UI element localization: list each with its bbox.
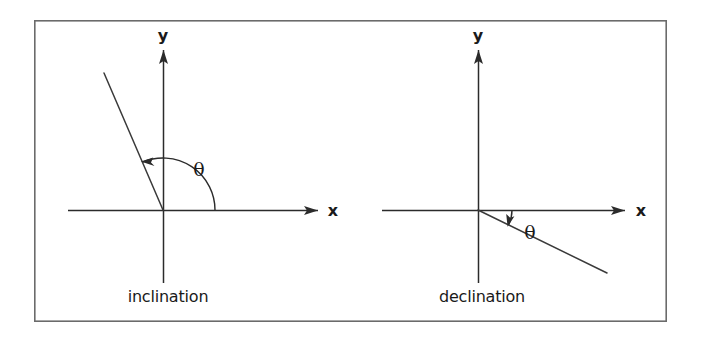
x-axis-label-declination: x — [636, 201, 647, 220]
y-axis-label-declination: y — [473, 26, 484, 45]
caption-inclination: inclination — [128, 287, 209, 306]
theta-symbol-inclination: θ — [193, 158, 204, 180]
figure-root: x y θ inclination x y — [0, 0, 704, 345]
y-axis-label-inclination: y — [158, 26, 169, 45]
outer-frame — [35, 21, 666, 321]
angle-definition-diagram: x y θ inclination x y — [0, 0, 704, 345]
x-axis-label-inclination: x — [328, 201, 339, 220]
caption-declination: declination — [439, 287, 525, 306]
theta-symbol-declination: θ — [524, 221, 535, 243]
